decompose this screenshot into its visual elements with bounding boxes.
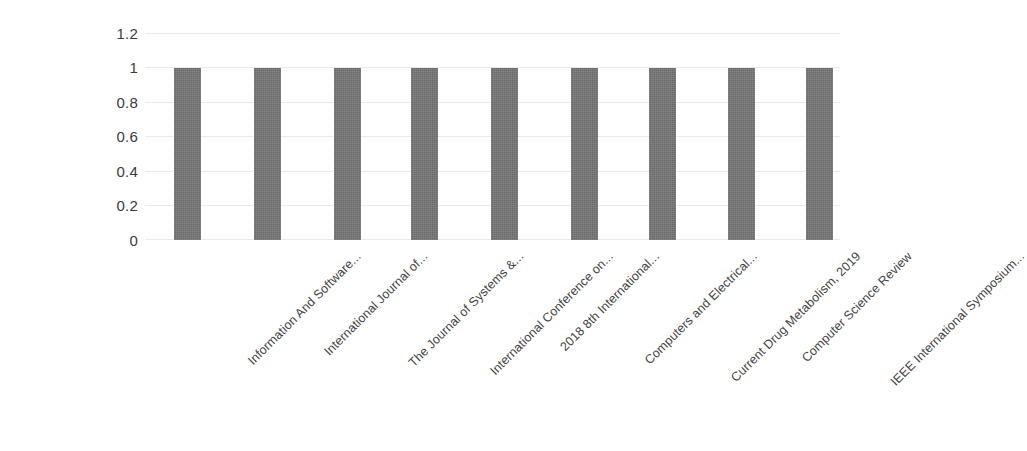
- x-axis: Information And Software... Internationa…: [145, 240, 840, 451]
- y-tick-label: 0.4: [60, 164, 138, 179]
- x-tick-label: 2018 8th International...: [558, 250, 662, 354]
- bars-layer: [145, 33, 840, 240]
- y-axis: 1.2 1 0.8 0.6 0.4 0.2 0: [60, 0, 138, 451]
- bar[interactable]: [334, 68, 361, 241]
- bar[interactable]: [254, 68, 281, 241]
- y-tick-label: 0.2: [60, 198, 138, 213]
- bar[interactable]: [649, 68, 676, 241]
- bar[interactable]: [174, 68, 201, 241]
- y-tick-label: 0: [60, 233, 138, 248]
- y-tick-label: 0.6: [60, 129, 138, 144]
- y-tick-label: 1: [60, 60, 138, 75]
- bar[interactable]: [728, 68, 755, 241]
- bar[interactable]: [491, 68, 518, 241]
- y-tick-label: 0.8: [60, 95, 138, 110]
- bar[interactable]: [571, 68, 598, 241]
- x-tick-label: Computer Science Review: [800, 250, 915, 365]
- bar[interactable]: [806, 68, 833, 241]
- x-tick-label: Information And Software...: [246, 250, 364, 368]
- bar[interactable]: [411, 68, 438, 241]
- x-tick-label: Computers and Electrical...: [643, 250, 760, 367]
- y-tick-label: 1.2: [60, 26, 138, 41]
- x-tick-label: IEEE International Symposium...: [889, 250, 1027, 389]
